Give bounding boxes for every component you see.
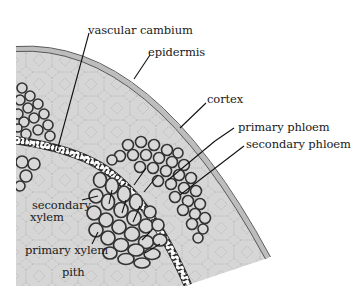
leader-cortex	[180, 103, 206, 128]
label-primary-xylem: primary xylem	[25, 244, 108, 256]
label-primary-phloem: primary phloem	[238, 121, 330, 133]
label-secondary-phloem: secondary phloem	[246, 138, 351, 150]
label-epidermis: epidermis	[148, 46, 205, 58]
leader-primary-phloem	[215, 128, 234, 141]
label-secondary-xylem-line2: xylem	[30, 211, 64, 223]
label-cortex: cortex	[207, 93, 243, 105]
label-pith: pith	[62, 266, 85, 278]
label-vascular-cambium: vascular cambium	[88, 24, 193, 36]
